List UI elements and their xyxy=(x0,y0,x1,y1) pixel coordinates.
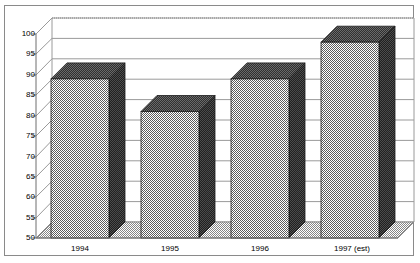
x-tick-label-1994: 1994 xyxy=(71,244,89,253)
x-tick-label-1996: 1996 xyxy=(251,244,269,253)
x-tick-label-1997-est: 1997 (est) xyxy=(334,244,370,253)
x-axis-tick-labels: 1994 1995 1996 1997 (est) xyxy=(0,0,420,263)
x-tick-label-1995: 1995 xyxy=(161,244,179,253)
chart-container: 100 95 90 85 80 75 70 65 60 55 50 1994 1… xyxy=(0,0,420,263)
